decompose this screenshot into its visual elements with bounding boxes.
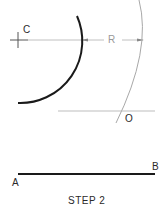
label-c: C bbox=[23, 24, 30, 35]
label-o: O bbox=[125, 113, 133, 124]
label-r: R bbox=[108, 34, 115, 45]
step-caption: STEP 2 bbox=[68, 195, 105, 206]
large-arc bbox=[116, 0, 142, 123]
label-b: B bbox=[152, 161, 159, 172]
label-a: A bbox=[12, 177, 19, 188]
